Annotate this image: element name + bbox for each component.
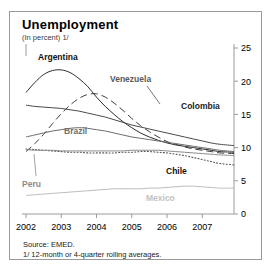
y-tick-label: 5 bbox=[241, 176, 246, 186]
series-group bbox=[26, 70, 234, 196]
x-tick-label: 2005 bbox=[122, 222, 142, 232]
leader-line-venezuela bbox=[147, 86, 160, 104]
series-line-peru bbox=[26, 150, 234, 156]
series-line-brazil bbox=[26, 128, 234, 152]
x-tick-label: 2004 bbox=[86, 222, 106, 232]
x-tick-label: 2007 bbox=[192, 222, 212, 232]
series-label-brazil: Brazil bbox=[64, 126, 87, 136]
series-line-mexico bbox=[26, 186, 234, 195]
series-label-peru: Peru bbox=[22, 179, 41, 189]
y-tick-label: 10 bbox=[241, 143, 251, 153]
x-tick-label: 2002 bbox=[16, 222, 36, 232]
series-label-mexico: Mexico bbox=[146, 193, 175, 203]
source-note: Source: EMED. bbox=[23, 240, 75, 249]
y-tick-label: 0 bbox=[241, 209, 246, 219]
leader-line-peru bbox=[34, 154, 36, 176]
y-tick-label: 20 bbox=[241, 77, 251, 87]
plot-area: 0510152025200220032004200520062007 bbox=[0, 0, 271, 271]
series-line-colombia bbox=[26, 105, 234, 146]
series-label-colombia: Colombia bbox=[181, 101, 220, 111]
footnote: 1/ 12-month or 4-quarter rolling average… bbox=[23, 250, 161, 259]
series-line-chile bbox=[26, 149, 234, 165]
x-tick-label: 2006 bbox=[157, 222, 177, 232]
unemployment-chart-figure: Unemployment (In percent) 1/ 05101520252… bbox=[0, 0, 271, 271]
series-label-chile: Chile bbox=[166, 166, 187, 176]
y-tick-label: 25 bbox=[241, 43, 251, 53]
series-label-venezuela: Venezuela bbox=[110, 74, 151, 84]
series-label-argentina: Argentina bbox=[38, 52, 78, 62]
y-tick-label: 15 bbox=[241, 110, 251, 120]
x-tick-label: 2003 bbox=[51, 222, 71, 232]
